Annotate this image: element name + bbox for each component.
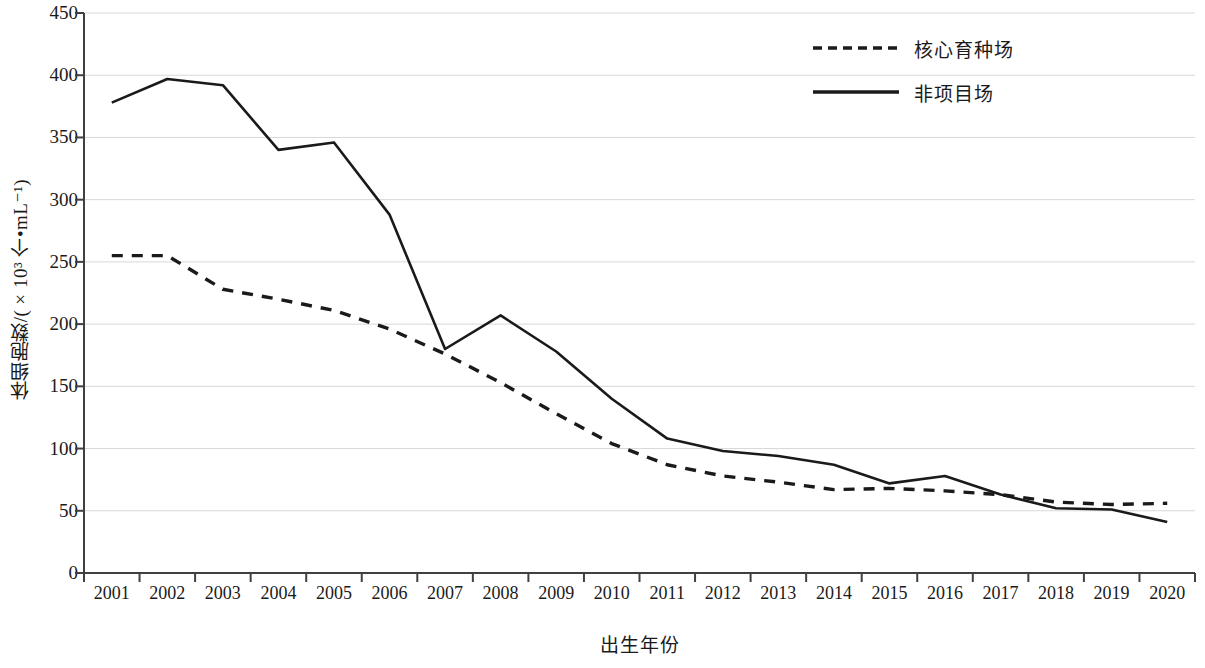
x-axis-tick-label: 2012: [695, 583, 751, 613]
x-axis-tick-label: 2011: [639, 583, 695, 613]
series-line-非项目场: [112, 79, 1167, 522]
x-axis-tick-label: 2010: [584, 583, 640, 613]
x-axis-tick-label: 2002: [140, 583, 196, 613]
x-axis-tick-label: 2008: [473, 583, 529, 613]
legend-item[interactable]: 非项目场: [812, 70, 1014, 114]
legend-item-label: 核心育种场: [914, 35, 1014, 62]
x-axis-ticks: [84, 573, 1195, 582]
plot-canvas: [0, 0, 1205, 668]
chart-legend: 核心育种场非项目场: [812, 26, 1014, 114]
x-axis-tick-label: 2009: [528, 583, 584, 613]
x-axis-tick-label: 2017: [973, 583, 1029, 613]
x-axis-title: 出生年份: [84, 630, 1195, 657]
x-axis-tick-labels: 2001200220032004200520062007200820092010…: [84, 583, 1195, 613]
y-axis-ticks: [75, 13, 84, 573]
x-axis-tick-label: 2005: [306, 583, 362, 613]
series-lines: [112, 79, 1167, 522]
x-axis-tick-label: 2018: [1028, 583, 1084, 613]
legend-item-label: 非项目场: [914, 79, 994, 106]
x-axis-tick-label: 2015: [862, 583, 918, 613]
x-axis-tick-label: 2004: [251, 583, 307, 613]
legend-item[interactable]: 核心育种场: [812, 26, 1014, 70]
somatic-cell-count-line-chart: 体细胞数/(×10³ 个•mL⁻¹) 050100150200250300350…: [0, 0, 1205, 668]
x-axis-tick-label: 2020: [1139, 583, 1195, 613]
x-axis-tick-label: 2013: [751, 583, 807, 613]
solid-line-icon: [812, 85, 900, 99]
x-axis-tick-label: 2006: [362, 583, 418, 613]
gridlines: [84, 13, 1195, 511]
dashed-line-icon: [812, 41, 900, 55]
x-axis-tick-label: 2001: [84, 583, 140, 613]
x-axis-tick-label: 2007: [417, 583, 473, 613]
x-axis-title-text: 出生年份: [600, 635, 680, 656]
series-line-核心育种场: [112, 256, 1167, 505]
x-axis-tick-label: 2014: [806, 583, 862, 613]
x-axis-tick-label: 2003: [195, 583, 251, 613]
x-axis-tick-label: 2019: [1084, 583, 1140, 613]
x-axis-tick-label: 2016: [917, 583, 973, 613]
